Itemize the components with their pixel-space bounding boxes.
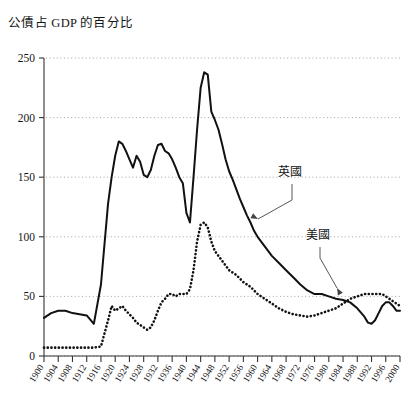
y-tick-label: 150: [18, 171, 36, 183]
x-axis-ticks: 1900190419081912191619201924192819321936…: [27, 356, 402, 384]
y-tick-label: 100: [18, 231, 36, 243]
annotations-group: 英國美國: [251, 165, 343, 295]
gridlines: [46, 58, 400, 356]
y-tick-label: 50: [24, 290, 36, 302]
plot-area: 050100150200250 190019041908191219161920…: [0, 0, 409, 411]
annotation-arrow: [320, 247, 337, 288]
annotation-label-uk: 英國: [278, 165, 302, 179]
annotation-arrowhead: [337, 288, 343, 295]
y-tick-label: 200: [18, 112, 36, 124]
annotation-arrow: [258, 184, 292, 219]
x-tick-label: 2000: [383, 362, 402, 383]
annotation-label-us: 美國: [306, 228, 330, 242]
y-axis-ticks: 050100150200250: [18, 52, 44, 362]
series-line-uk: [44, 72, 400, 324]
y-tick-label: 250: [18, 52, 36, 64]
data-series-group: [44, 72, 400, 347]
chart-container: 公債占 GDP 的百分比 050100150200250 19001904190…: [0, 0, 409, 411]
y-tick-label: 0: [29, 350, 35, 362]
annotation-arrowhead: [251, 213, 258, 219]
series-line-us: [44, 223, 400, 348]
axis-lines: [44, 58, 400, 356]
